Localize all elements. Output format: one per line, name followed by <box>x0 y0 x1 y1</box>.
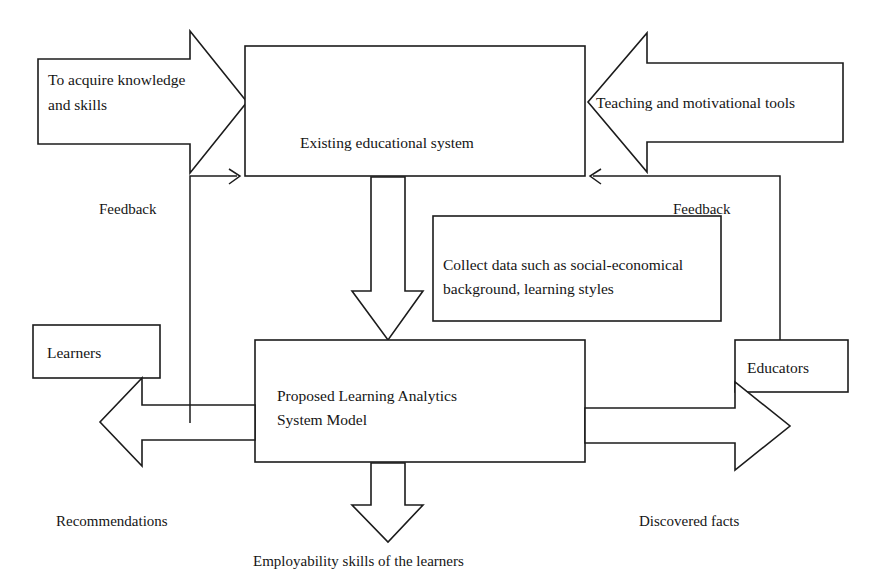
label-existing-educational-system: Existing educational system <box>300 134 474 151</box>
label-proposed-model-line1: Proposed Learning Analytics <box>277 387 457 404</box>
node-existing-educational-system <box>245 46 585 176</box>
block-arrow-to-employability <box>352 463 423 542</box>
label-acquire-knowledge-line1: To acquire knowledge <box>48 71 186 88</box>
block-arrow-to-learners <box>100 378 255 466</box>
diagram-root: To acquire knowledge and skills Teaching… <box>0 0 879 583</box>
label-recommendations: Recommendations <box>56 513 168 529</box>
label-learners: Learners <box>47 344 101 361</box>
label-feedback-left: Feedback <box>99 201 157 217</box>
label-collect-data-line2: background, learning styles <box>443 280 614 297</box>
label-collect-data-line1: Collect data such as social-economical <box>443 256 683 273</box>
label-feedback-right: Feedback <box>673 201 731 217</box>
connector-feedback-left <box>190 176 237 423</box>
label-teaching-tools: Teaching and motivational tools <box>596 94 795 111</box>
label-acquire-knowledge-line2: and skills <box>48 96 107 113</box>
block-arrow-down-to-model <box>352 177 423 340</box>
label-educators: Educators <box>747 359 809 376</box>
label-employability-skills: Employability skills of the learners <box>253 553 464 569</box>
label-discovered-facts: Discovered facts <box>639 513 740 529</box>
block-arrow-to-educators <box>585 382 790 470</box>
diagram-canvas: To acquire knowledge and skills Teaching… <box>0 0 879 583</box>
label-proposed-model-line2: System Model <box>277 411 367 428</box>
